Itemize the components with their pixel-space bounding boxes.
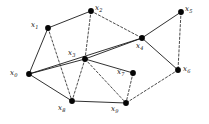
graph-node-label-x2: x2: [95, 4, 102, 11]
graph-node-label-x5: x5: [185, 5, 192, 12]
graph-edge-x1-x8: [48, 28, 72, 101]
graph-node-x3: [82, 56, 88, 62]
graph-node-x7: [130, 70, 136, 76]
graph-edge-x3-x8: [72, 59, 85, 101]
graph-node-label-x7: x7: [117, 68, 124, 75]
graph-edge-x2-x3: [85, 11, 91, 59]
graph-node-x5: [178, 9, 184, 15]
edge-layer: [29, 11, 181, 103]
graph-edge-x2-x4: [91, 11, 142, 38]
graph-edge-x8-x9: [72, 101, 126, 103]
graph-node-label-x3: x3: [68, 49, 75, 56]
graph-canvas: [0, 0, 209, 124]
graph-node-label-x6: x6: [183, 65, 190, 72]
graph-node-x8: [69, 98, 75, 104]
graph-node-x9: [123, 100, 129, 106]
graph-edge-x0-x4: [29, 38, 142, 74]
graph-node-label-x1: x1: [31, 21, 38, 28]
graph-node-label-x4: x4: [136, 42, 143, 49]
graph-edge-x0-x1: [29, 28, 48, 74]
graph-edge-x3-x4: [85, 38, 142, 59]
graph-edge-x7-x9: [126, 73, 133, 103]
graph-node-x6: [175, 67, 181, 73]
graph-node-label-x8: x8: [58, 104, 65, 111]
graph-edge-x0-x8: [29, 74, 72, 101]
graph-edge-x1-x2: [48, 11, 91, 28]
graph-node-x1: [45, 25, 51, 31]
graph-figure: x0x1x2x3x4x5x6x7x8x9: [0, 0, 209, 124]
graph-edge-x4-x5: [142, 12, 181, 38]
graph-node-x2: [88, 8, 94, 14]
graph-edge-x5-x6: [178, 12, 181, 70]
graph-node-label-x0: x0: [10, 69, 17, 76]
graph-node-x0: [26, 71, 32, 77]
graph-node-label-x9: x9: [111, 105, 118, 112]
graph-edge-x3-x7: [85, 59, 133, 73]
graph-edge-x3-x9: [85, 59, 126, 103]
graph-edge-x4-x6: [142, 38, 178, 70]
node-layer: [26, 8, 184, 106]
